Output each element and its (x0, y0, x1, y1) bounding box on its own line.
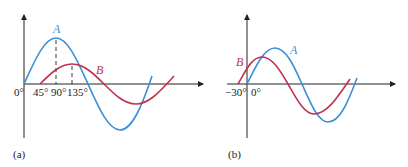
tick-90: 90° (51, 86, 66, 98)
phase-diagram: A B 0° 45° 90° 135° (a) A B −30° 0° (b) (0, 0, 408, 167)
tick-0: 0° (251, 86, 261, 98)
label-b: B (96, 63, 104, 77)
tick-0: 0° (14, 86, 24, 98)
panel-a: A B 0° 45° 90° 135° (a) (13, 15, 203, 161)
tick-135: 135° (67, 86, 88, 98)
panel-b: A B −30° 0° (b) (225, 15, 395, 161)
label-a: A (52, 22, 61, 36)
caption-b: (b) (228, 148, 241, 161)
tick-45: 45° (33, 86, 48, 98)
label-b: B (236, 55, 244, 69)
label-a: A (289, 43, 298, 57)
curve-a-panel-b (247, 48, 357, 122)
tick-minus30: −30° (225, 86, 247, 98)
caption-a: (a) (13, 148, 26, 161)
